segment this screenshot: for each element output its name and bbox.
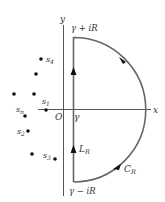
arrow-up-icon (71, 145, 77, 153)
arc-label: CR (124, 164, 136, 176)
line-label: LR (78, 144, 90, 156)
singularity-dot (39, 57, 43, 61)
singularity-dot (44, 108, 48, 112)
y-axis-label: y (59, 14, 66, 24)
gamma-label: γ (74, 112, 80, 122)
origin-label: O (55, 112, 63, 122)
singularity-dot (26, 129, 30, 133)
contour-diagram: x y O γ γ + iR γ − iR LR CR s4 s1 sn s2 … (0, 0, 165, 202)
singularity-dot (30, 152, 34, 156)
singularity-label-s1: s1 (42, 97, 50, 107)
singularity-dot (53, 157, 57, 161)
singularity-label-s4: s4 (46, 55, 54, 65)
singularity-label-sn: sn (16, 105, 24, 115)
singularity-label-s3: s3 (43, 151, 51, 161)
bottom-endpoint-label: γ − iR (69, 186, 96, 196)
singularity-dot (12, 92, 16, 96)
singularity-dot (32, 92, 36, 96)
singularity-dot (34, 72, 38, 76)
arrow-arc-bottom-icon (113, 164, 121, 170)
singularity-label-s2: s2 (17, 127, 25, 137)
x-axis-label: x (153, 105, 158, 115)
top-endpoint-label: γ + iR (71, 23, 98, 33)
arrow-up-icon (71, 67, 77, 75)
